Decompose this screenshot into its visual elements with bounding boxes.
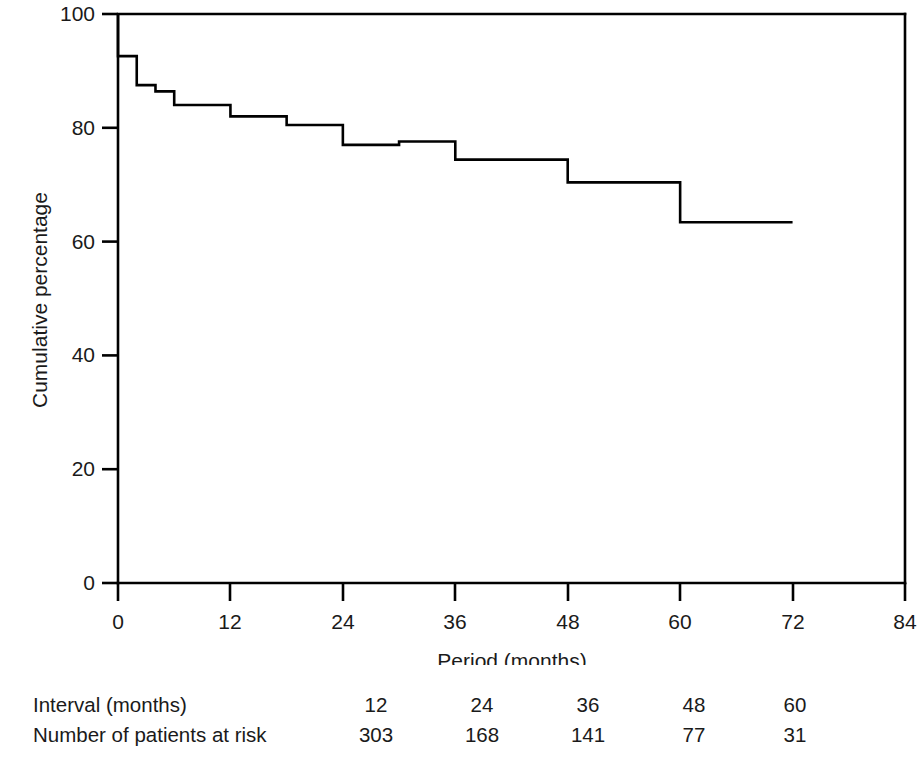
x-axis-ticks: [118, 583, 905, 601]
interval-cell-5: 60: [760, 690, 830, 720]
interval-cell-3: 36: [553, 690, 623, 720]
x-tick-label-12: 12: [218, 610, 241, 633]
y-axis-title: Cumulative percentage: [28, 192, 51, 408]
numbers-at-risk-table: Interval (months) 12 24 36 48 60 Number …: [0, 690, 922, 750]
y-tick-label-40: 40: [72, 343, 95, 366]
y-tick-label-20: 20: [72, 457, 95, 480]
survival-curve-line: [118, 14, 793, 222]
survival-curve-figure: 100 80 60 40 20 0 0 12 24 36 48 60 72 84…: [0, 0, 922, 783]
at-risk-cell-5: 31: [760, 720, 830, 750]
x-tick-labels: 0 12 24 36 48 60 72 84: [112, 610, 917, 633]
y-tick-label-80: 80: [72, 116, 95, 139]
x-tick-label-36: 36: [443, 610, 466, 633]
survival-step-curve: [118, 14, 793, 222]
table-row-interval: Interval (months) 12 24 36 48 60: [0, 690, 922, 720]
y-tick-label-0: 0: [83, 571, 95, 594]
interval-cell-1: 12: [341, 690, 411, 720]
y-tick-label-60: 60: [72, 230, 95, 253]
at-risk-cell-2: 168: [447, 720, 517, 750]
y-axis-ticks: [102, 14, 118, 583]
plot-frame: [118, 14, 905, 583]
table-row-patients-at-risk: Number of patients at risk 303 168 141 7…: [0, 720, 922, 750]
x-tick-label-24: 24: [331, 610, 355, 633]
at-risk-cell-1: 303: [341, 720, 411, 750]
at-risk-cell-3: 141: [553, 720, 623, 750]
x-tick-label-60: 60: [668, 610, 691, 633]
row-label-patients-at-risk: Number of patients at risk: [33, 720, 267, 750]
x-tick-label-0: 0: [112, 610, 124, 633]
y-tick-labels: 100 80 60 40 20 0: [60, 2, 95, 594]
interval-cell-4: 48: [659, 690, 729, 720]
at-risk-cell-4: 77: [659, 720, 729, 750]
kaplan-meier-chart: 100 80 60 40 20 0 0 12 24 36 48 60 72 84…: [0, 0, 922, 665]
x-axis-title: Period (months): [437, 649, 586, 665]
y-tick-label-100: 100: [60, 2, 95, 25]
x-tick-label-48: 48: [556, 610, 579, 633]
x-tick-label-84: 84: [893, 610, 917, 633]
row-label-interval: Interval (months): [33, 690, 187, 720]
x-tick-label-72: 72: [781, 610, 804, 633]
interval-cell-2: 24: [447, 690, 517, 720]
